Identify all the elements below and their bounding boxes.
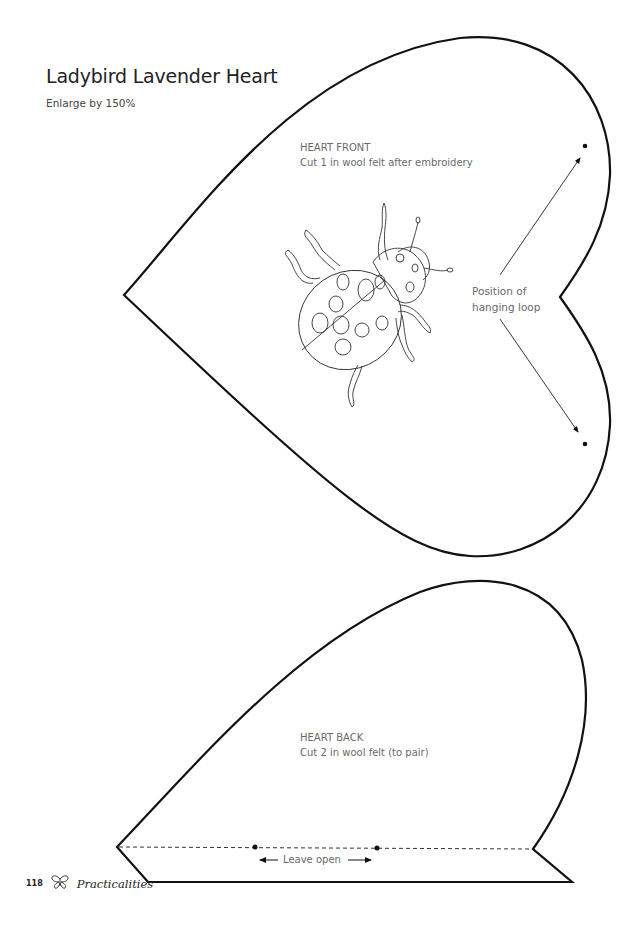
page-number: 118: [26, 879, 43, 888]
opening-point-right: [375, 846, 380, 851]
butterfly-icon: [51, 874, 69, 893]
opening-dashed-line: [119, 847, 533, 849]
loop-arrow-top: [500, 158, 580, 275]
leave-open-label: Leave open: [283, 854, 341, 865]
loop-arrow-bottom: [500, 319, 578, 432]
heart-front-instruction: Cut 1 in wool felt after embroidery: [300, 155, 473, 170]
page-footer: 118 Practicalities: [26, 874, 153, 893]
heart-front-heading: HEART FRONT: [300, 140, 473, 155]
loop-point-top: [583, 144, 588, 149]
loop-label-line1: Position of: [472, 283, 540, 299]
section-name: Practicalities: [77, 877, 154, 891]
loop-point-bottom: [583, 442, 588, 447]
heart-back-instruction: Cut 2 in wool felt (to pair): [300, 745, 429, 760]
hanging-loop-label: Position of hanging loop: [472, 283, 540, 315]
opening-point-left: [253, 845, 258, 850]
loop-label-line2: hanging loop: [472, 299, 540, 315]
enlarge-note: Enlarge by 150%: [46, 97, 135, 109]
heart-back-heading: HEART BACK: [300, 730, 429, 745]
heart-front-label: HEART FRONT Cut 1 in wool felt after emb…: [300, 140, 473, 170]
page-title: Ladybird Lavender Heart: [46, 65, 278, 87]
ladybird-icon: [279, 203, 453, 407]
heart-back-label: HEART BACK Cut 2 in wool felt (to pair): [300, 730, 429, 760]
